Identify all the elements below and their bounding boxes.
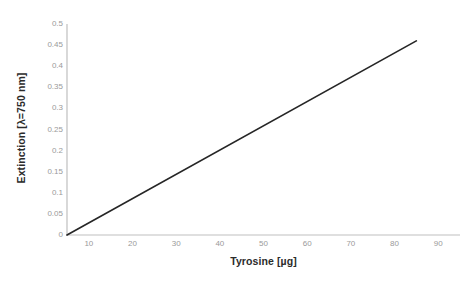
chart-container: Extinction [λ=750 nm] 00.050.10.150.20.2… — [0, 0, 472, 281]
plot-area — [0, 0, 472, 281]
data-line-tyrosine — [67, 41, 416, 235]
